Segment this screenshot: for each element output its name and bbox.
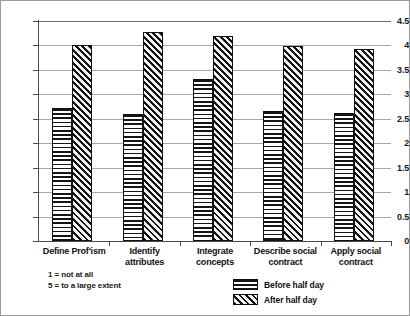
- y-tick-mark-4: [33, 45, 38, 46]
- bar: [72, 45, 92, 241]
- x-category-label-line: contract: [321, 257, 391, 268]
- footnote-line-1: 1 = not at all: [48, 269, 121, 280]
- y-tick-mark-0: [33, 241, 38, 242]
- plot-area: [39, 21, 391, 241]
- bar: [143, 32, 163, 241]
- chart-figure: 00.511.522.533.544.5 Define Prof'ismIden…: [0, 0, 410, 316]
- x-category-label: Describe socialcontract: [250, 246, 320, 268]
- x-category-label: Identify attributes: [109, 246, 179, 268]
- x-tick-mark: [391, 241, 392, 246]
- bar: [123, 114, 143, 241]
- bar: [213, 36, 233, 241]
- y-tick-mark-3: [33, 94, 38, 95]
- bar: [263, 111, 283, 241]
- legend-label-before: Before half day: [264, 280, 324, 290]
- y-tick-mark-3.5: [33, 70, 38, 71]
- x-category-label-line: concepts: [180, 257, 250, 268]
- bar: [52, 108, 72, 241]
- y-tick-mark-2.5: [33, 119, 38, 120]
- y-tick-mark-0.5: [33, 217, 38, 218]
- legend-label-after: After half day: [264, 295, 317, 305]
- legend-swatch-after-icon: [233, 294, 258, 305]
- y-tick-mark-2: [33, 143, 38, 144]
- legend-item-after: After half day: [233, 292, 324, 307]
- y-tick-mark-4.5: [33, 21, 38, 22]
- y-tick-mark-1: [33, 192, 38, 193]
- x-axis-line: [38, 241, 391, 242]
- bar: [193, 79, 213, 241]
- x-category-label-line: Apply social: [321, 246, 391, 257]
- bar: [354, 49, 374, 241]
- x-category-label-line: contract: [250, 257, 320, 268]
- bar: [283, 46, 303, 241]
- footnote: 1 = not at all 5 = to a large extent: [48, 269, 121, 291]
- gridline-4.5: [39, 21, 391, 22]
- x-category-label-line: Identify attributes: [109, 246, 179, 268]
- legend-item-before: Before half day: [233, 277, 324, 292]
- footnote-line-2: 5 = to a large extent: [48, 280, 121, 291]
- x-category-label: Define Prof'ism: [39, 246, 109, 257]
- x-category-label: Integrateconcepts: [180, 246, 250, 268]
- bar: [334, 113, 354, 241]
- x-category-label-line: Integrate: [180, 246, 250, 257]
- x-category-label-line: Describe social: [250, 246, 320, 257]
- x-category-label: Apply socialcontract: [321, 246, 391, 268]
- chart-legend: Before half day After half day: [233, 277, 324, 307]
- x-category-label-line: Define Prof'ism: [39, 246, 109, 257]
- legend-swatch-before-icon: [233, 279, 258, 290]
- y-tick-mark-1.5: [33, 168, 38, 169]
